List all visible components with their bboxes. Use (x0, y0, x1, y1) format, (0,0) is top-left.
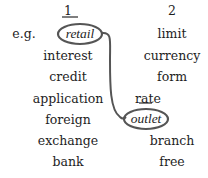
word-credit: credit (49, 70, 86, 84)
word-retail: retail (66, 27, 95, 41)
word-outlet: outlet (131, 112, 162, 126)
word-branch: branch (150, 134, 195, 148)
word-currency: currency (144, 49, 201, 63)
match-line (102, 33, 126, 119)
example-label: e.g. (12, 27, 35, 41)
column-2-header: 2 (168, 4, 176, 18)
word-interest: interest (43, 49, 92, 63)
word-foreign: foreign (45, 113, 91, 127)
word-bank: bank (52, 155, 83, 169)
word-form: form (157, 70, 187, 84)
word-limit: limit (158, 27, 187, 41)
column-1-header: 1 (64, 4, 72, 18)
word-free: free (159, 155, 184, 169)
word-exchange: exchange (38, 134, 98, 148)
word-application: application (33, 92, 104, 106)
word-rate: rate (135, 92, 161, 106)
